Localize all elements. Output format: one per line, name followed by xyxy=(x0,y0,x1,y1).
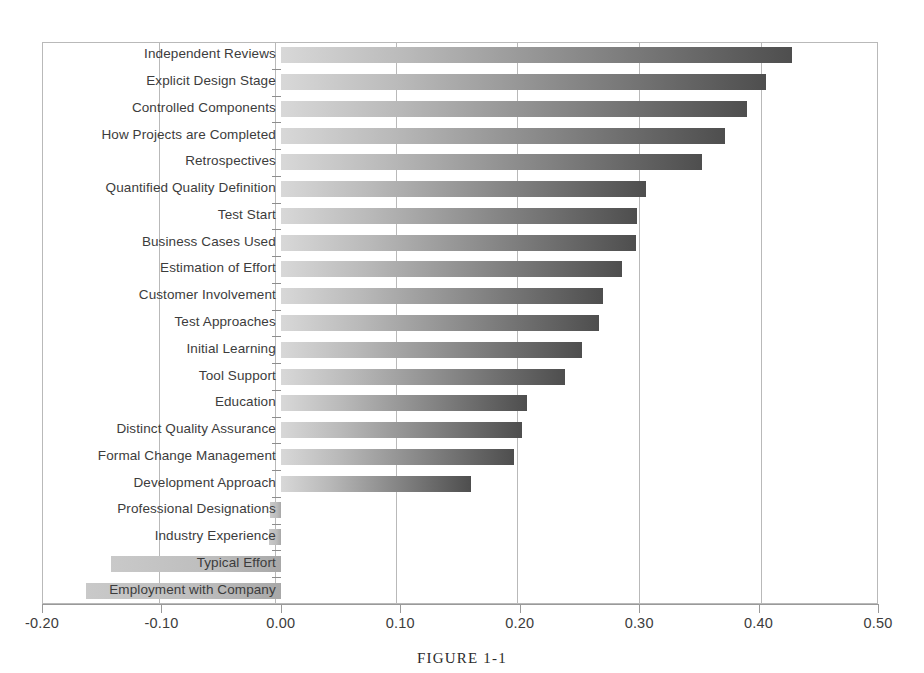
category-label: Industry Experience xyxy=(0,523,276,550)
bar xyxy=(281,261,623,277)
x-axis-tick-label: 0.00 xyxy=(241,615,321,631)
bar xyxy=(281,235,636,251)
bar xyxy=(281,449,514,465)
bar xyxy=(281,476,471,492)
bar xyxy=(281,422,522,438)
bar xyxy=(281,369,565,385)
x-axis-tick-label: 0.20 xyxy=(480,615,560,631)
figure-caption: FIGURE 1-1 xyxy=(0,650,924,667)
category-label: Customer Involvement xyxy=(0,282,276,309)
category-label: Retrospectives xyxy=(0,148,276,175)
bar xyxy=(281,74,766,90)
bar xyxy=(281,342,582,358)
x-axis-tick xyxy=(759,604,760,613)
x-axis-tick xyxy=(281,604,282,613)
bar xyxy=(281,395,527,411)
category-label: Distinct Quality Assurance xyxy=(0,416,276,443)
category-label: Tool Support xyxy=(0,363,276,390)
category-label: Independent Reviews xyxy=(0,41,276,68)
category-label: Explicit Design Stage xyxy=(0,68,276,95)
x-axis-tick xyxy=(400,604,401,613)
x-axis-tick-label: 0.10 xyxy=(360,615,440,631)
category-label: How Projects are Completed xyxy=(0,122,276,149)
bar xyxy=(281,154,703,170)
x-axis-tick-label: 0.50 xyxy=(838,615,918,631)
category-label: Typical Effort xyxy=(0,550,276,577)
category-label: Test Approaches xyxy=(0,309,276,336)
bar xyxy=(281,128,725,144)
x-axis-tick xyxy=(42,604,43,613)
x-axis-tick-label: -0.10 xyxy=(121,615,201,631)
x-axis-tick-label: 0.40 xyxy=(719,615,799,631)
category-label: Education xyxy=(0,389,276,416)
bar xyxy=(281,101,747,117)
category-label: Development Approach xyxy=(0,470,276,497)
category-label: Professional Designations xyxy=(0,496,276,523)
x-axis-tick xyxy=(161,604,162,613)
x-axis-tick-label: 0.30 xyxy=(599,615,679,631)
x-axis-tick xyxy=(520,604,521,613)
category-label: Estimation of Effort xyxy=(0,255,276,282)
bar xyxy=(281,47,792,63)
category-label: Initial Learning xyxy=(0,336,276,363)
bar xyxy=(281,181,646,197)
category-label: Employment with Company xyxy=(0,577,276,604)
category-label: Controlled Components xyxy=(0,95,276,122)
bar xyxy=(281,315,599,331)
figure-container: Independent ReviewsExplicit Design Stage… xyxy=(0,0,924,673)
x-axis-tick-label: -0.20 xyxy=(2,615,82,631)
x-axis-line xyxy=(42,604,878,605)
category-label: Business Cases Used xyxy=(0,229,276,256)
category-label: Quantified Quality Definition xyxy=(0,175,276,202)
category-label: Formal Change Management xyxy=(0,443,276,470)
x-axis-tick xyxy=(878,604,879,613)
bar xyxy=(281,288,603,304)
bar xyxy=(281,208,637,224)
category-label: Test Start xyxy=(0,202,276,229)
x-axis-tick xyxy=(639,604,640,613)
